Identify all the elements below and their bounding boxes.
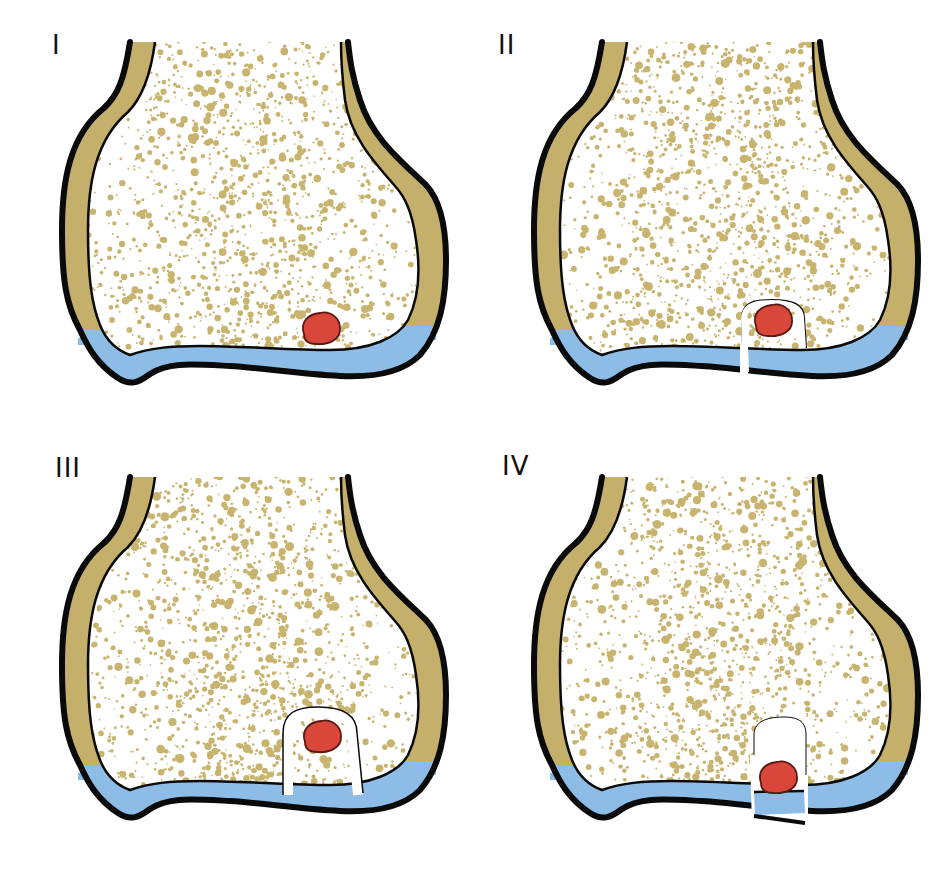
panel-label: III [55, 455, 81, 481]
panel-label: I [52, 32, 61, 58]
femur-diagram [472, 435, 943, 870]
lesion-fragment [303, 312, 340, 344]
femur-diagram [0, 435, 471, 870]
femur-bone [455, 39, 943, 383]
panel-stage-1: I [0, 0, 471, 435]
panel-stage-4: IV [472, 435, 943, 870]
displaced-fragment [750, 755, 806, 830]
lesion-fragment [304, 720, 341, 752]
lesion-fragment [755, 304, 792, 336]
panel-stage-2: II [472, 0, 943, 435]
panel-label: II [498, 32, 515, 58]
lesion-fragment [760, 761, 797, 793]
panel-stage-3: III [0, 435, 471, 870]
femur-bone [0, 472, 505, 817]
panel-label: IV [502, 453, 529, 479]
femur-diagram [472, 0, 943, 435]
femur-diagram [0, 0, 471, 435]
femur-bone [7, 39, 508, 383]
femur-bone [458, 472, 943, 830]
